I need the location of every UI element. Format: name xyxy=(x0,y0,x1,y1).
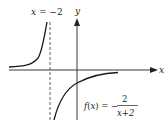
asymptote-label: x = −2 xyxy=(31,7,63,17)
y-axis-label: y xyxy=(74,6,81,16)
curve-right-branch xyxy=(54,73,118,121)
x-axis-label: x xyxy=(159,65,164,75)
x-axis-arrow-icon xyxy=(150,67,158,73)
asymptote-eq: = −2 xyxy=(36,7,63,17)
formula-lhs: f(x) = − xyxy=(83,101,118,111)
function-label: f(x) = − 2 x+2 xyxy=(83,94,138,118)
y-axis-arrow-icon xyxy=(74,18,80,26)
formula-denominator: x+2 xyxy=(117,108,134,118)
curve-left-branch xyxy=(9,22,47,67)
formula-numerator: 2 xyxy=(122,94,127,104)
graph-canvas: x y x = −2 f(x) = − 2 x+2 xyxy=(0,0,165,125)
